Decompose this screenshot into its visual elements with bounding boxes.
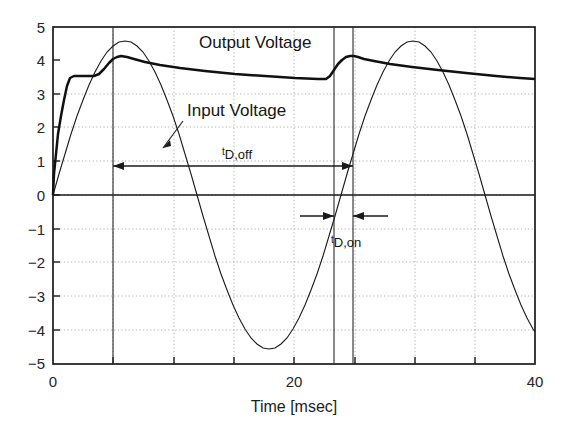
y-tick-label-neg3: −3: [28, 288, 45, 305]
t-d-on-label: tD,on: [331, 234, 361, 250]
t-d-off-label: tD,off: [222, 146, 252, 162]
y-tick-label-0: 0: [37, 187, 45, 204]
input-voltage-label: Input Voltage: [187, 101, 286, 120]
y-tick-label-neg2: −2: [28, 254, 45, 271]
y-tick-label-neg5: −5: [28, 355, 45, 372]
y-tick-label-5: 5: [37, 19, 45, 36]
x-tick-label-20: 20: [286, 373, 303, 390]
y-tick-label-3: 3: [37, 86, 45, 103]
output-voltage-label: Output Voltage: [199, 33, 311, 52]
y-tick-label-2: 2: [37, 119, 45, 136]
chart-figure: 5 4 3 2 1 0 −1 −2 −3 −4 −5 0 20 40 Time …: [0, 0, 574, 429]
y-tick-label-4: 4: [37, 52, 45, 69]
x-axis-title: Time [msec]: [251, 398, 338, 415]
y-tick-label-neg4: −4: [28, 322, 45, 339]
y-tick-label-neg1: −1: [28, 221, 45, 238]
x-tick-label-40: 40: [527, 373, 544, 390]
x-tick-label-0: 0: [49, 373, 57, 390]
y-tick-label-1: 1: [37, 153, 45, 170]
